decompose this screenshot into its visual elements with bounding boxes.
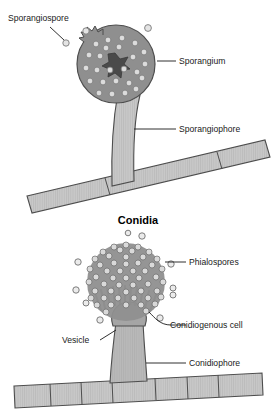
label-text-phialospores: Phialospores [189,257,239,267]
conidia-heading: Conidia [118,214,159,226]
label-text-conidiophore: Conidiophore [189,358,240,368]
label-text-sporangiospore: Sporangiospore [8,13,69,23]
label-text-vesicle: Vesicle [62,335,89,345]
label-text-sporangiophore: Sporangiophore [179,124,240,134]
label-text-sporangium: Sporangium [179,56,225,66]
label-text-conidiogenous-cell: Conidiogenous cell [170,320,243,330]
fungal-reproductive-structures-diagram: Sporangiospore Sporangium Sporangiophore… [0,0,277,418]
